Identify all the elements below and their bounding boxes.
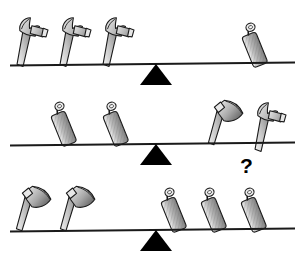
third-balance-row (0, 166, 305, 257)
second-balance-row (0, 86, 305, 166)
rolling-pin-icon (42, 97, 87, 151)
axe-icon (52, 179, 104, 234)
fulcrum-triangle (140, 64, 172, 85)
fulcrum-triangle (140, 230, 172, 251)
question-mark: ? (240, 155, 253, 176)
fulcrum-triangle (140, 144, 172, 165)
balance-puzzle-image: ? (0, 0, 305, 257)
hammer-icon (86, 9, 145, 71)
hammer-icon (238, 94, 297, 156)
first-balance-row (0, 0, 305, 86)
